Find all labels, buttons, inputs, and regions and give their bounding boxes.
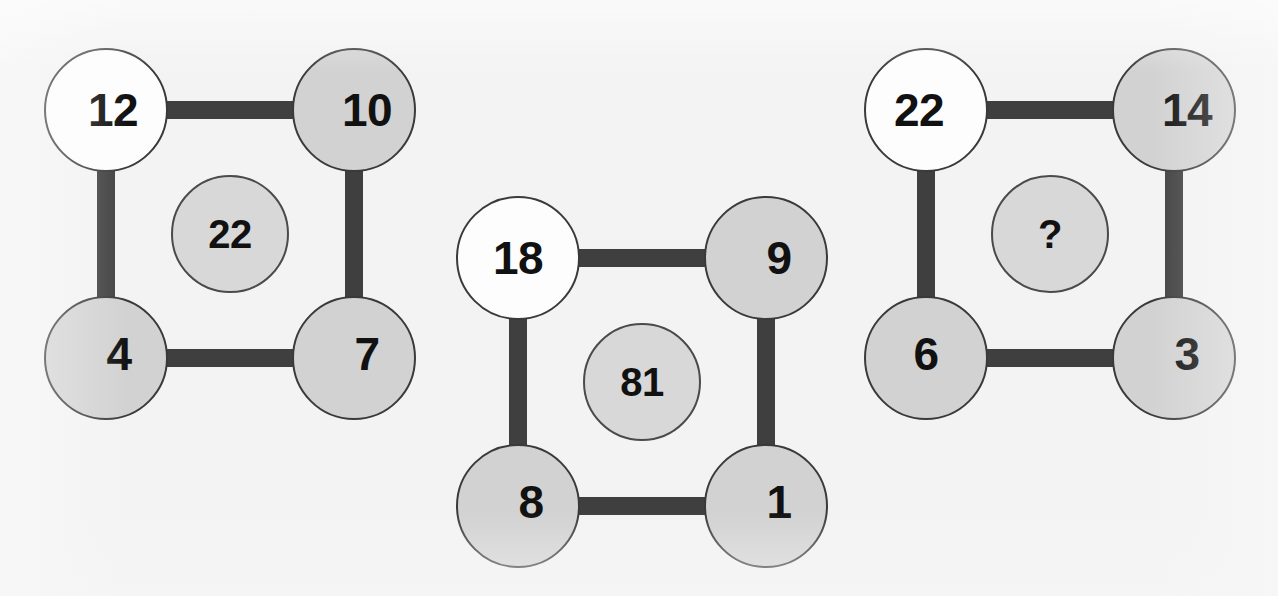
node-top-right-3[interactable]: 14 <box>1112 48 1236 172</box>
node-top-left-2[interactable]: 18 <box>456 196 580 320</box>
node-top-left-3[interactable]: 22 <box>864 48 988 172</box>
node-top-left-1[interactable]: 12 <box>44 48 168 172</box>
puzzle-group-3: 22 14 6 3 ? <box>864 48 1236 420</box>
puzzle-group-2: 18 9 8 1 81 <box>456 196 828 568</box>
node-bottom-left-2[interactable]: 8 <box>456 444 580 568</box>
edge-right-3 <box>1165 158 1183 310</box>
node-center-1[interactable]: 22 <box>171 175 289 293</box>
node-bottom-right-1[interactable]: 7 <box>292 296 416 420</box>
edge-right-2 <box>757 306 775 458</box>
node-center-3[interactable]: ? <box>991 175 1109 293</box>
node-bottom-right-3[interactable]: 3 <box>1112 296 1236 420</box>
edge-left-2 <box>509 306 527 458</box>
edge-right-1 <box>345 158 363 310</box>
node-bottom-left-1[interactable]: 4 <box>44 296 168 420</box>
edge-top-1 <box>154 101 306 119</box>
node-top-right-1[interactable]: 10 <box>292 48 416 172</box>
edge-bottom-3 <box>974 349 1126 367</box>
node-top-right-2[interactable]: 9 <box>704 196 828 320</box>
puzzle-group-1: 12 10 4 7 22 <box>44 48 416 420</box>
edge-top-2 <box>566 249 718 267</box>
node-bottom-left-3[interactable]: 6 <box>864 296 988 420</box>
edge-bottom-2 <box>566 497 718 515</box>
node-center-2[interactable]: 81 <box>583 323 701 441</box>
edge-top-3 <box>974 101 1126 119</box>
edge-left-3 <box>917 158 935 310</box>
node-bottom-right-2[interactable]: 1 <box>704 444 828 568</box>
edge-bottom-1 <box>154 349 306 367</box>
edge-left-1 <box>97 158 115 310</box>
puzzle-stage: 12 10 4 7 22 18 9 8 1 81 22 14 6 3 ? <box>0 0 1278 596</box>
